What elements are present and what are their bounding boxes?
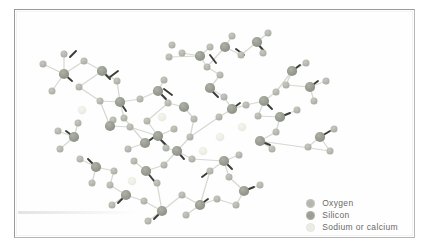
legend-label-sodium-calcium: Sodium or calcium xyxy=(322,223,398,232)
oxygen-atom xyxy=(114,78,121,85)
oxygen-atom xyxy=(179,50,186,57)
silicon-atom xyxy=(287,66,297,76)
silicon-atom xyxy=(195,200,205,210)
oxygen-atom xyxy=(269,146,276,153)
silicon-atom xyxy=(69,132,79,142)
bond-stub xyxy=(164,89,172,95)
sodium-calcium-atom xyxy=(158,113,167,122)
oxygen-atom xyxy=(236,152,243,159)
silicon-atom xyxy=(140,138,150,148)
oxygen-atom xyxy=(161,77,168,84)
silicon-atom xyxy=(259,96,269,106)
oxygen-atom xyxy=(221,94,228,101)
oxygen-atom xyxy=(191,116,198,123)
legend: Oxygen Silicon Sodium or calcium xyxy=(306,199,398,232)
oxygen-atom xyxy=(189,156,196,163)
oxygen-atom xyxy=(273,89,280,96)
silicon-atom xyxy=(105,121,115,131)
silicon-atom xyxy=(205,83,215,93)
oxygen-atom xyxy=(169,42,176,49)
atom-layer xyxy=(40,30,338,225)
silicon-atom xyxy=(179,102,189,112)
silicon-atom xyxy=(59,69,69,79)
oxygen-atom xyxy=(109,202,116,209)
oxygen-atom xyxy=(238,52,245,59)
oxygen-atom xyxy=(89,180,96,187)
silicon-atom xyxy=(91,162,101,172)
oxygen-atom xyxy=(49,88,56,95)
oxygen-atom xyxy=(75,120,82,127)
sodium-calcium-atom xyxy=(216,133,225,142)
oxygen-atom xyxy=(141,198,148,205)
bond-stub xyxy=(70,51,76,57)
silicon-atom xyxy=(141,166,151,176)
oxygen-swatch-icon xyxy=(306,199,315,208)
bond xyxy=(200,171,210,205)
oxygen-atom xyxy=(165,100,172,107)
oxygen-atom xyxy=(183,212,190,219)
silicon-atom xyxy=(157,206,167,216)
oxygen-atom xyxy=(243,102,250,109)
silicon-atom xyxy=(315,132,325,142)
oxygen-atom xyxy=(323,78,330,85)
sodium-calcium-atom xyxy=(128,177,137,186)
oxygen-atom xyxy=(179,192,186,199)
oxygen-atom xyxy=(163,145,170,152)
silicon-atom xyxy=(97,66,107,76)
oxygen-atom xyxy=(217,72,224,79)
oxygen-atom xyxy=(229,33,236,40)
sodium-calcium-swatch-icon xyxy=(306,223,315,232)
oxygen-atom xyxy=(97,98,104,105)
silicon-atom xyxy=(195,51,205,61)
silicon-atom xyxy=(239,186,249,196)
legend-label-silicon: Silicon xyxy=(322,211,350,220)
sodium-calcium-atom xyxy=(199,147,208,156)
oxygen-atom xyxy=(303,60,310,67)
oxygen-atom xyxy=(260,50,267,57)
silicon-swatch-icon xyxy=(306,211,315,220)
oxygen-atom xyxy=(144,118,151,125)
oxygen-atom xyxy=(61,51,68,58)
oxygen-atom xyxy=(331,126,338,133)
oxygen-atom xyxy=(214,196,221,203)
oxygen-atom xyxy=(77,156,84,163)
oxygen-atom xyxy=(216,114,223,121)
oxygen-atom xyxy=(255,113,262,120)
oxygen-atom xyxy=(145,218,152,225)
silicon-atom xyxy=(121,190,131,200)
bond xyxy=(79,87,100,101)
oxygen-atom xyxy=(161,162,168,169)
silicon-atom xyxy=(153,86,163,96)
legend-item-sodium-calcium: Sodium or calcium xyxy=(306,223,398,232)
oxygen-atom xyxy=(121,115,128,122)
oxygen-atom xyxy=(137,96,144,103)
oxygen-atom xyxy=(207,168,214,175)
oxygen-atom xyxy=(171,126,178,133)
oxygen-atom xyxy=(81,58,88,65)
oxygen-atom xyxy=(257,182,264,189)
figure-container: Oxygen Silicon Sodium or calcium xyxy=(0,0,422,250)
oxygen-atom xyxy=(327,148,334,155)
oxygen-atom xyxy=(127,124,134,131)
legend-label-oxygen: Oxygen xyxy=(322,199,353,208)
silicon-atom xyxy=(172,146,182,156)
silicon-atom xyxy=(227,104,237,114)
silicon-atom xyxy=(115,97,125,107)
oxygen-atom xyxy=(311,98,318,105)
oxygen-atom xyxy=(204,64,211,71)
oxygen-atom xyxy=(107,182,114,189)
oxygen-atom xyxy=(273,129,280,136)
legend-item-oxygen: Oxygen xyxy=(306,199,398,208)
oxygen-atom xyxy=(131,158,138,165)
silicon-atom xyxy=(220,42,230,52)
oxygen-atom xyxy=(233,202,240,209)
oxygen-atom xyxy=(125,146,132,153)
oxygen-atom xyxy=(40,61,47,68)
silicon-atom xyxy=(219,156,229,166)
sodium-calcium-atom xyxy=(78,106,87,115)
oxygen-atom xyxy=(207,44,214,51)
oxygen-atom xyxy=(166,54,173,61)
silicon-atom xyxy=(153,131,163,141)
silicon-atom xyxy=(255,136,265,146)
oxygen-atom xyxy=(305,144,312,151)
